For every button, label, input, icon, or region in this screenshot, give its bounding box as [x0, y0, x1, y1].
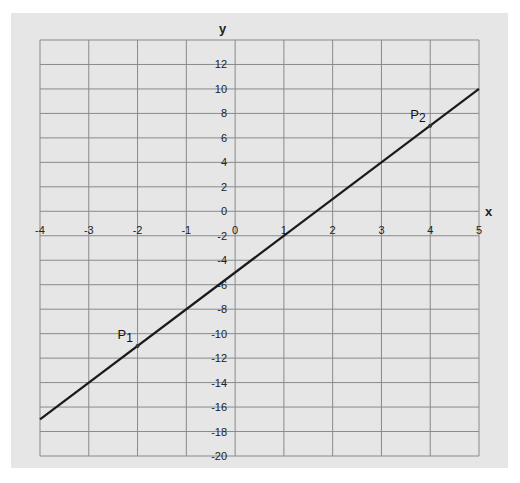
y-tick-label: -16 — [211, 401, 227, 413]
data-series — [40, 89, 479, 419]
y-axis-label: y — [219, 21, 227, 36]
y-tick-label: -2 — [217, 230, 227, 242]
x-tick-label: 4 — [427, 224, 433, 236]
y-tick-label: 8 — [221, 107, 227, 119]
y-tick-label: -12 — [211, 352, 227, 364]
point-label: P2 — [410, 107, 426, 125]
x-tick-label: -3 — [84, 224, 94, 236]
x-tick-label: -4 — [35, 224, 45, 236]
x-axis-label: x — [485, 204, 493, 219]
y-tick-label: 0 — [221, 205, 227, 217]
x-tick-label: 3 — [378, 224, 384, 236]
y-tick-label: -14 — [211, 377, 227, 389]
y-tick-label: -10 — [211, 328, 227, 340]
point-marker — [428, 124, 432, 128]
x-tick-label: 5 — [476, 224, 482, 236]
y-tick-label: 4 — [221, 156, 227, 168]
x-tick-label: 2 — [330, 224, 336, 236]
y-tick-label: 6 — [221, 132, 227, 144]
x-tick-label: -2 — [133, 224, 143, 236]
y-tick-label: -20 — [211, 450, 227, 462]
x-tick-label: 0 — [232, 224, 238, 236]
line-chart: -4-3-2-1012345121086420-2-4-6-8-10-12-14… — [0, 0, 520, 483]
y-tick-label: -18 — [211, 426, 227, 438]
point-marker — [136, 344, 140, 348]
x-tick-label: -1 — [181, 224, 191, 236]
y-tick-label: 12 — [215, 58, 227, 70]
series-line — [40, 89, 479, 419]
y-tick-label: 10 — [215, 83, 227, 95]
point-label: P1 — [118, 327, 134, 345]
point-labels: P1P2 — [118, 107, 433, 348]
y-tick-label: -4 — [217, 254, 227, 266]
y-tick-label: 2 — [221, 181, 227, 193]
y-tick-label: -8 — [217, 303, 227, 315]
grid-lines — [40, 40, 479, 456]
